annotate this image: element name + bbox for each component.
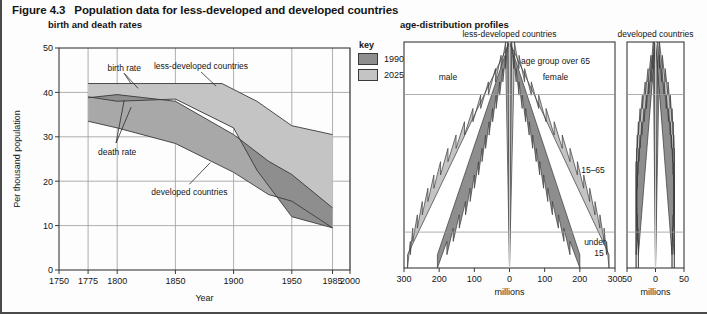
- svg-text:1950: 1950: [282, 276, 302, 286]
- svg-text:30: 30: [43, 132, 53, 142]
- svg-text:40: 40: [43, 88, 53, 98]
- svg-text:developed countries: developed countries: [617, 29, 693, 39]
- svg-text:15: 15: [594, 248, 604, 258]
- svg-text:millions: millions: [640, 287, 671, 297]
- annotation-2: less-developed countries: [154, 61, 248, 71]
- annotation-1: death rate: [98, 147, 137, 157]
- svg-text:50: 50: [622, 274, 632, 284]
- svg-text:10: 10: [43, 221, 53, 231]
- svg-text:0: 0: [48, 265, 53, 275]
- svg-text:millions: millions: [494, 287, 525, 297]
- svg-text:200: 200: [572, 274, 587, 284]
- svg-text:1800: 1800: [107, 276, 127, 286]
- svg-text:100: 100: [467, 274, 482, 284]
- svg-text:less-developed countries: less-developed countries: [462, 29, 556, 39]
- svg-text:100: 100: [537, 274, 552, 284]
- svg-text:0: 0: [653, 274, 658, 284]
- svg-text:300: 300: [396, 274, 411, 284]
- svg-text:1900: 1900: [224, 276, 244, 286]
- svg-text:Per thousand population: Per thousand population: [12, 110, 22, 208]
- svg-text:15–65: 15–65: [581, 165, 605, 175]
- figure-container: Figure 4.3Population data for less-devel…: [0, 0, 707, 314]
- svg-text:1775: 1775: [78, 276, 98, 286]
- svg-text:1850: 1850: [165, 276, 185, 286]
- svg-text:0: 0: [507, 274, 512, 284]
- svg-text:under: under: [584, 237, 606, 247]
- birth-death-rate-chart: 0102030405017501775180018501900195019852…: [2, 0, 372, 314]
- svg-text:200: 200: [432, 274, 447, 284]
- svg-text:1750: 1750: [49, 276, 69, 286]
- svg-text:male: male: [439, 72, 458, 82]
- svg-text:age group over 65: age group over 65: [521, 56, 590, 66]
- svg-text:2000: 2000: [340, 276, 360, 286]
- age-distribution-chart: 3002001000100200300millionsless-develope…: [392, 0, 707, 314]
- annotation-3: developed countries: [151, 187, 227, 197]
- svg-text:50: 50: [43, 43, 53, 53]
- svg-text:female: female: [543, 72, 569, 82]
- svg-text:20: 20: [43, 177, 53, 187]
- svg-text:300: 300: [607, 274, 622, 284]
- annotation-0: birth rate: [107, 63, 141, 73]
- svg-text:50: 50: [679, 274, 689, 284]
- svg-text:Year: Year: [195, 293, 213, 303]
